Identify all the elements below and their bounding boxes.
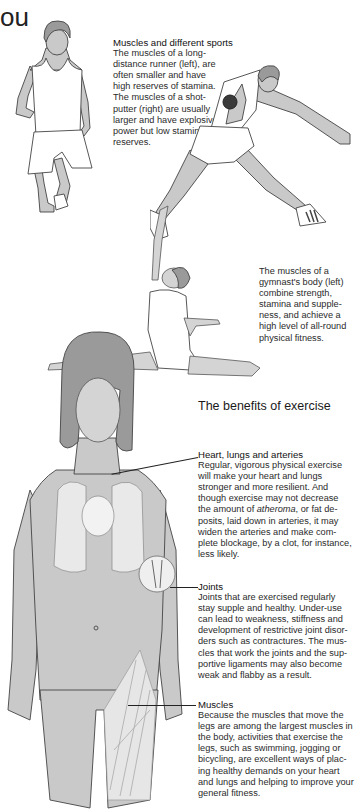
joints-connector-line bbox=[170, 587, 198, 588]
heart-caption-line: Regular, vigorous physical exercise bbox=[198, 460, 358, 471]
heart-caption-line: stronger and more resilient. And bbox=[198, 482, 358, 493]
joints-title: Joints bbox=[198, 581, 358, 592]
heart-line-pre: the amount of bbox=[198, 504, 257, 514]
muscles-caption-line: bicycling, are excellent ways of plac- bbox=[198, 754, 358, 765]
heart-lungs-title: Heart, lungs and arteries bbox=[198, 449, 358, 460]
muscles-caption-line: the body, activities that exercise the bbox=[198, 732, 358, 743]
joints-caption-line: portive ligaments may also become bbox=[198, 659, 358, 670]
heart-caption-line: widen the arteries and make com- bbox=[198, 527, 358, 538]
gymnast-caption-line: The muscles of a bbox=[259, 266, 355, 277]
gymnast-caption-line: ness, and achieve a bbox=[259, 310, 355, 321]
heart-lungs-caption: Heart, lungs and arteries Regular, vigor… bbox=[198, 449, 358, 560]
heart-caption-line: plete blockage, by a clot, for instance, bbox=[198, 538, 358, 549]
joints-caption-line: cles that work the joints and the sup- bbox=[198, 648, 358, 659]
heart-line-post: , or fat de- bbox=[296, 504, 338, 514]
atheroma-term: atheroma bbox=[257, 504, 296, 514]
long-distance-runner-illustration bbox=[0, 8, 120, 213]
muscles-caption-line: general fitness. bbox=[198, 788, 358, 799]
heart-caption-line: the amount of atheroma, or fat de- bbox=[198, 504, 358, 515]
heart-caption-line: posits, laid down in arteries, it may bbox=[198, 516, 358, 527]
gymnast-caption-line: combine strength, bbox=[259, 288, 355, 299]
muscles-connector-line bbox=[128, 705, 196, 706]
joints-caption-line: weak and flabby as a result. bbox=[198, 670, 358, 681]
joints-caption-line: ders such as contractures. The mus- bbox=[198, 636, 358, 647]
gymnast-caption-line: stamina and supple- bbox=[259, 299, 355, 310]
muscles-caption-line: legs are among the largest muscles in bbox=[198, 721, 358, 732]
muscles-caption: Muscles Because the muscles that move th… bbox=[198, 699, 358, 799]
heart-caption-line: less likely. bbox=[198, 549, 358, 560]
muscles-title: Muscles bbox=[198, 699, 358, 710]
joints-caption-line: stay supple and healthy. Under-use bbox=[198, 603, 358, 614]
muscles-caption-line: Because the muscles that move the bbox=[198, 710, 358, 721]
heart-caption-line: though exercise may not decrease bbox=[198, 493, 358, 504]
heart-caption-line: will make your heart and lungs bbox=[198, 471, 358, 482]
gymnast-caption-line: physical fitness. bbox=[259, 333, 355, 344]
muscles-caption-line: legs, such as swimming, jogging or bbox=[198, 743, 358, 754]
female-anatomy-illustration bbox=[0, 330, 200, 812]
gymnast-caption-line: high level of all-round bbox=[259, 321, 355, 332]
joints-caption-line: can lead to weakness, stiffness and bbox=[198, 614, 358, 625]
joints-caption: Joints Joints that are exercised regular… bbox=[198, 581, 358, 681]
gymnast-caption: The muscles of a gymnast's body (left) c… bbox=[259, 266, 355, 344]
benefits-section-title: The benefits of exercise bbox=[198, 399, 331, 413]
joints-caption-line: development of restrictive joint disor- bbox=[198, 625, 358, 636]
muscles-caption-line: ing healthy demands on your heart bbox=[198, 766, 358, 777]
muscles-caption-line: and lungs and helping to improve your bbox=[198, 777, 358, 788]
joints-caption-line: Joints that are exercised regularly bbox=[198, 592, 358, 603]
gymnast-caption-line: gymnast's body (left) bbox=[259, 277, 355, 288]
